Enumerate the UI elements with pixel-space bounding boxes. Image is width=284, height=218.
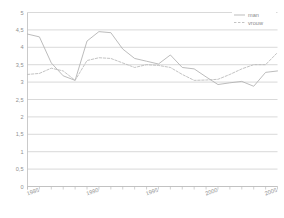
y-tick-label: 2,5 <box>16 97 24 103</box>
series-lines <box>28 32 278 87</box>
y-tick-label: 3,5 <box>16 62 24 68</box>
series-line-man <box>28 32 278 87</box>
y-axis-tick-labels: 00,511,522,533,544,55 <box>16 10 24 190</box>
y-tick-label: 4,5 <box>16 27 24 33</box>
legend-label-vrouw: vrouw <box>248 20 264 26</box>
y-tick-label: 1,5 <box>16 131 24 137</box>
y-tick-label: 4 <box>20 44 23 50</box>
x-tick-label: 1990 <box>85 187 99 197</box>
y-tick-label: 0,5 <box>16 166 24 172</box>
x-axis-tick-labels: 19851990199520002005 <box>26 187 278 197</box>
y-tick-label: 5 <box>20 10 23 16</box>
y-tick-label: 2 <box>20 114 23 120</box>
x-tick-label: 2005 <box>264 187 278 197</box>
x-tick-label: 2000 <box>205 187 219 197</box>
y-tick-label: 0 <box>20 184 23 190</box>
gridlines <box>28 13 278 187</box>
chart-canvas: 00,511,522,533,544,55 198519901995200020… <box>0 0 284 218</box>
x-tick-label: 1985 <box>26 187 40 197</box>
line-chart: 00,511,522,533,544,55 198519901995200020… <box>0 0 284 218</box>
x-tick-label: 1995 <box>145 187 159 197</box>
legend-label-man: man <box>248 12 259 18</box>
chart-legend: manvrouw <box>232 9 276 26</box>
y-tick-label: 3 <box>20 79 23 85</box>
y-tick-label: 1 <box>20 149 23 155</box>
